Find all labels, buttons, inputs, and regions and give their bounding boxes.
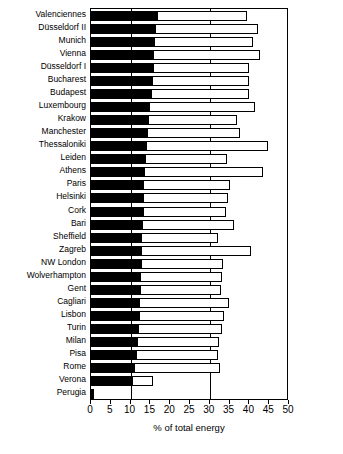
bar-row (91, 102, 255, 112)
bar-segment-black (91, 63, 154, 73)
y-axis-label: Verona (0, 375, 86, 384)
bar-segment-black (91, 337, 138, 347)
bar-segment-black (91, 376, 133, 386)
bar-row (91, 63, 249, 73)
bar-segment-black (91, 128, 148, 138)
bar-segment-white (93, 389, 94, 399)
bar-segment-black (91, 259, 142, 269)
bar-segment-white (155, 37, 252, 47)
bar-row (91, 246, 251, 256)
y-axis-label: Düsseldorf II (0, 23, 86, 32)
bar-segment-black (91, 246, 142, 256)
bar-segment-white (144, 193, 228, 203)
y-axis-label: Helsinki (0, 192, 86, 201)
bar-segment-white (154, 63, 249, 73)
bar-segment-white (140, 298, 229, 308)
bar-row (91, 350, 218, 360)
bar-segment-white (148, 128, 240, 138)
bar-segment-white (153, 76, 249, 86)
y-axis-label: Milan (0, 336, 86, 345)
y-axis-label: Turin (0, 323, 86, 332)
y-axis-label: Cork (0, 206, 86, 215)
bar-segment-white (142, 259, 223, 269)
bar-row (91, 233, 218, 243)
y-axis-label: Sheffield (0, 232, 86, 241)
bar-segment-black (91, 350, 137, 360)
bar-row (91, 193, 228, 203)
bar-segment-white (140, 311, 225, 321)
bar-segment-white (152, 89, 248, 99)
bar-row (91, 220, 234, 230)
bar-row (91, 141, 268, 151)
bar-segment-black (91, 298, 140, 308)
bar-row (91, 298, 229, 308)
bar-segment-black (91, 311, 140, 321)
bar-segment-white (147, 141, 267, 151)
bar-row (91, 285, 221, 295)
bar-segment-white (135, 363, 220, 373)
bar-segment-black (91, 233, 142, 243)
y-axis-label: Manchester (0, 127, 86, 136)
y-axis-label: Budapest (0, 88, 86, 97)
bar-segment-white (144, 207, 227, 217)
y-axis-label: Wolverhampton (0, 271, 86, 280)
bar-row (91, 376, 153, 386)
bar-row (91, 167, 263, 177)
bar-segment-black (91, 363, 135, 373)
y-axis-label: Paris (0, 179, 86, 188)
bar-row (91, 50, 260, 60)
x-axis-title: % of total energy (90, 422, 288, 434)
bar-row (91, 37, 253, 47)
bar-segment-white (150, 102, 255, 112)
bar-row (91, 89, 249, 99)
bar-segment-black (91, 102, 150, 112)
bar-segment-white (133, 376, 153, 386)
bar-segment-black (91, 154, 146, 164)
y-axis-label: Lisbon (0, 310, 86, 319)
x-axis-tick-labels: 05101520253035404550 (0, 404, 343, 418)
y-axis-label: Pisa (0, 349, 86, 358)
y-axis-label: Leiden (0, 153, 86, 162)
bar-series-container (91, 9, 287, 399)
y-axis-label: Luxembourg (0, 101, 86, 110)
y-axis-label: Munich (0, 36, 86, 45)
bar-segment-black (91, 37, 155, 47)
bar-row (91, 389, 94, 399)
bar-row (91, 207, 226, 217)
bar-segment-white (156, 24, 258, 34)
bar-segment-black (91, 180, 144, 190)
bar-segment-white (149, 115, 237, 125)
bar-segment-black (91, 193, 144, 203)
bar-row (91, 11, 247, 21)
bar-segment-white (141, 285, 221, 295)
bar-segment-white (142, 246, 251, 256)
bar-row (91, 363, 220, 373)
bar-segment-white (144, 180, 230, 190)
bar-segment-white (145, 167, 263, 177)
bar-segment-white (154, 50, 260, 60)
bar-segment-black (91, 50, 154, 60)
bar-row (91, 128, 240, 138)
bar-row (91, 324, 222, 334)
bar-segment-black (91, 115, 149, 125)
bar-segment-white (137, 350, 219, 360)
bar-row (91, 180, 230, 190)
y-axis-label: Athens (0, 166, 86, 175)
y-axis-label: Gent (0, 284, 86, 293)
bar-segment-black (91, 76, 153, 86)
y-axis-label: Vienna (0, 49, 86, 58)
bar-segment-black (91, 285, 141, 295)
bar-segment-white (142, 233, 217, 243)
bar-row (91, 259, 223, 269)
bar-segment-white (146, 154, 227, 164)
y-axis-label: Cagliari (0, 297, 86, 306)
bar-row (91, 24, 258, 34)
bar-segment-white (138, 337, 220, 347)
y-axis-label: NW London (0, 258, 86, 267)
bar-segment-black (91, 207, 144, 217)
horizontal-bar-chart: ValenciennesDüsseldorf IIMunichViennaDüs… (0, 0, 343, 454)
y-axis-label: Perugia (0, 388, 86, 397)
bar-row (91, 115, 237, 125)
bar-row (91, 272, 222, 282)
bar-segment-black (91, 272, 141, 282)
